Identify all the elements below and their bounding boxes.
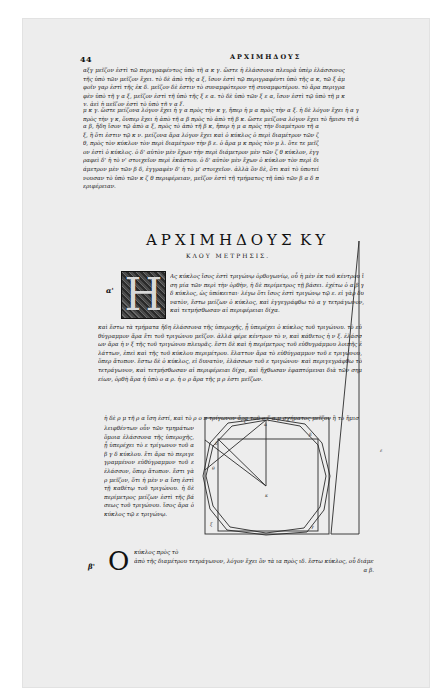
triangle-hypotenuse <box>331 241 359 534</box>
radius-line <box>218 439 266 486</box>
label-beta: β <box>308 432 312 437</box>
label-alpha: α <box>264 422 267 427</box>
inscribed-square <box>218 439 318 531</box>
label-gamma: γ <box>311 524 314 529</box>
label-xi: ξ <box>210 522 213 527</box>
label-epsilon: ε <box>380 448 383 453</box>
label-theta: θ <box>212 466 215 471</box>
label-kappa: κ <box>264 493 268 498</box>
geometric-diagram: α ζ β δ θ κ ξ γ ε <box>0 0 445 691</box>
label-delta: δ <box>215 441 218 446</box>
